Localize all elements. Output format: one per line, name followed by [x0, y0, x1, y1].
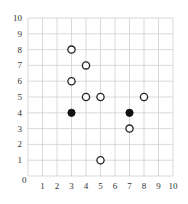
x-tick-label: 3 — [69, 181, 74, 191]
open-point — [82, 62, 89, 69]
x-tick-label: 2 — [55, 181, 60, 191]
y-tick-label: 6 — [18, 76, 23, 86]
open-point — [126, 125, 133, 132]
y-tick-label: 7 — [18, 60, 23, 70]
open-point — [97, 93, 104, 100]
filled-point — [126, 109, 133, 116]
y-tick-label: 9 — [18, 29, 23, 39]
x-tick-label: 7 — [127, 181, 132, 191]
x-tick-label: 8 — [142, 181, 147, 191]
open-point — [82, 93, 89, 100]
y-axis-ticks: 12345678910 — [13, 13, 23, 165]
x-tick-label: 1 — [40, 181, 45, 191]
open-point — [97, 157, 104, 164]
filled-point — [68, 109, 75, 116]
y-tick-label: 5 — [18, 92, 23, 102]
y-tick-label: 1 — [18, 155, 23, 165]
x-tick-label: 9 — [156, 181, 161, 191]
open-point — [140, 93, 147, 100]
x-tick-label: 10 — [169, 181, 179, 191]
y-tick-label: 4 — [18, 108, 23, 118]
open-point — [68, 78, 75, 85]
x-tick-label: 6 — [113, 181, 118, 191]
data-points — [68, 46, 148, 164]
y-tick-label: 10 — [13, 13, 23, 23]
y-tick-label: 2 — [18, 139, 23, 149]
y-tick-label: 3 — [18, 124, 23, 134]
open-point — [68, 46, 75, 53]
x-axis-ticks: 12345678910 — [40, 181, 178, 191]
x-tick-label: 4 — [84, 181, 89, 191]
y-tick-label: 8 — [18, 45, 23, 55]
origin-label: 0 — [22, 175, 27, 185]
scatter-chart: 12345678910 12345678910 0 — [0, 0, 188, 204]
x-tick-label: 5 — [98, 181, 103, 191]
